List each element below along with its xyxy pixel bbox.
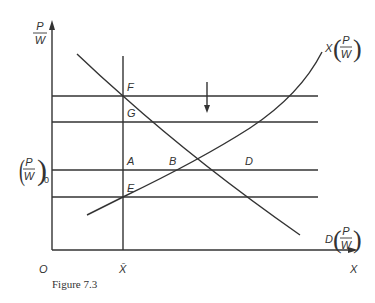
- point-label-g: G: [127, 107, 136, 119]
- y-axis: [49, 20, 55, 250]
- supply-curve: [87, 52, 322, 215]
- y-axis-label: P W: [33, 20, 47, 46]
- svg-text:D: D: [325, 233, 333, 245]
- point-label-f: F: [127, 81, 135, 93]
- origin-label: O: [39, 263, 48, 275]
- diagram-canvas: P W ( P W ) 0 F G A B D E X ( P W ) D ( …: [0, 0, 375, 303]
- svg-text:): ): [353, 34, 362, 63]
- supply-curve-label: X ( P W ): [324, 34, 362, 63]
- point-label-e: E: [127, 182, 135, 194]
- svg-text:W: W: [35, 34, 47, 46]
- y-tick-label-p-w-0: ( P W ) 0: [19, 153, 49, 187]
- svg-text:W: W: [341, 48, 353, 60]
- svg-text:P: P: [342, 225, 350, 237]
- figure-caption: Figure 7.3: [52, 278, 98, 290]
- y-axis-arrowhead-icon: [49, 20, 55, 30]
- svg-text:): ): [353, 225, 362, 254]
- point-label-a: A: [126, 155, 134, 167]
- point-label-b: B: [169, 155, 176, 167]
- x-bar-label: X̄: [118, 263, 127, 275]
- x-axis: [52, 247, 358, 253]
- svg-text:0: 0: [44, 175, 49, 185]
- point-label-d: D: [245, 155, 253, 167]
- svg-text:X: X: [324, 42, 333, 54]
- svg-text:W: W: [24, 170, 36, 182]
- x-axis-label: X: [349, 263, 358, 275]
- svg-text:W: W: [341, 239, 353, 251]
- down-arrow-icon: [204, 82, 210, 113]
- demand-curve: [77, 54, 300, 235]
- svg-text:P: P: [36, 20, 44, 32]
- svg-text:P: P: [342, 34, 350, 46]
- svg-text:P: P: [25, 156, 33, 168]
